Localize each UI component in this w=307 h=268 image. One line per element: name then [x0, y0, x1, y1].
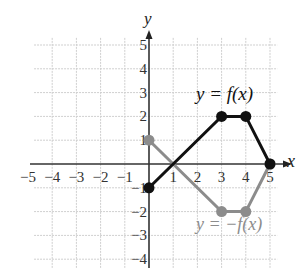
x-tick-label: −2	[93, 169, 109, 185]
negf-label: y = −f(x)	[194, 214, 262, 235]
y-tick-label: 2	[140, 108, 148, 124]
f-label: y = f(x)	[194, 83, 253, 105]
data-point	[240, 111, 251, 122]
x-tick-label: 2	[194, 169, 202, 185]
y-tick-label: −2	[131, 204, 147, 220]
y-tick-label: 5	[140, 37, 148, 53]
x-tick-label: −4	[44, 169, 60, 185]
y-tick-label: 4	[140, 61, 148, 77]
data-point	[265, 159, 276, 170]
data-point	[144, 135, 155, 146]
x-tick-label: 4	[242, 169, 250, 185]
x-tick-label: 1	[169, 169, 177, 185]
series-line	[149, 140, 270, 211]
x-tick-label: 3	[218, 169, 226, 185]
y-tick-label: −4	[131, 251, 147, 267]
series-line	[149, 116, 270, 187]
y-tick-label: −3	[131, 227, 147, 243]
data-point	[144, 182, 155, 193]
y-tick-label: 3	[140, 85, 148, 101]
coordinate-plane: −5−4−3−2−11234554321−1−2−3−4 y = f(x) y …	[0, 0, 307, 268]
x-tick-label: −5	[20, 169, 36, 185]
y-axis-label: y	[142, 9, 152, 28]
data-point	[216, 111, 227, 122]
x-tick-label: −3	[68, 169, 84, 185]
x-axis-label: x	[286, 151, 295, 171]
